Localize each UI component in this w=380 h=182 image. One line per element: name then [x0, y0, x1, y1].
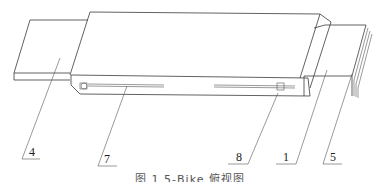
callout-1: 1: [283, 150, 289, 164]
callout-5: 5: [330, 150, 336, 164]
leader-lines: [22, 58, 352, 166]
left-block-part-4: [14, 20, 88, 80]
technical-drawing: 4 7 8 1 5: [0, 0, 380, 182]
callout-4: 4: [29, 145, 35, 159]
slot-part-7: [80, 83, 164, 89]
slot-part-8: [214, 83, 295, 90]
callout-8: 8: [236, 150, 242, 164]
figure-caption: 图 1 5-Bike 俯视图: [0, 170, 380, 182]
plates-part-5: [354, 28, 372, 98]
main-body: [70, 12, 331, 96]
callout-7: 7: [104, 152, 110, 166]
